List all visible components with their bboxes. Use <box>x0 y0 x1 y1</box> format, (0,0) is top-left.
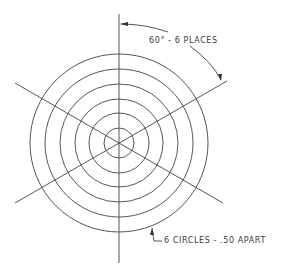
angle-note: 60° - 6 PLACES <box>149 37 218 45</box>
angle-dimension <box>120 22 222 81</box>
dimension-arc-left <box>121 24 168 32</box>
arrowhead-top <box>120 22 128 26</box>
arrowhead-right <box>218 74 222 81</box>
leader-arrowhead <box>150 228 154 235</box>
circles-note: 6 CIRCLES - .50 APART <box>164 237 266 245</box>
circles-leader <box>150 228 162 241</box>
dimension-arc-right <box>190 46 221 80</box>
radial-lines <box>15 14 227 263</box>
